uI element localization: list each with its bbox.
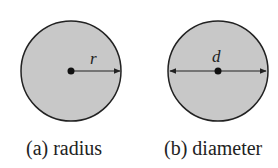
caption-radius: (a) radius [26, 137, 102, 160]
radius-circle: r [21, 21, 121, 121]
diameter-circle: d [168, 21, 268, 121]
caption-diameter: (b) diameter [164, 137, 262, 160]
radius-symbol: r [90, 49, 97, 68]
diameter-symbol: d [212, 47, 221, 66]
